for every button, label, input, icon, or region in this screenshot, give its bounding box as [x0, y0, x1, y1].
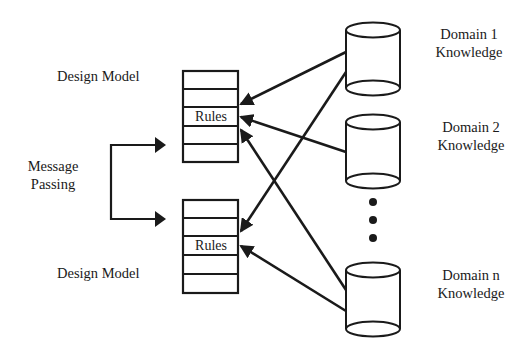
domain-1-line1: Domain 1	[418, 25, 520, 43]
message-passing-label: Message Passing	[22, 157, 84, 193]
arrow-domainn-to-model1	[241, 130, 346, 290]
domain-1-line2: Knowledge	[418, 43, 520, 61]
arrow-domain2-to-model1	[241, 117, 346, 152]
design-model-2-rules-label: Rules	[183, 238, 239, 254]
domain-n-line2: Knowledge	[420, 284, 522, 302]
design-model-1-label: Design Model	[57, 67, 140, 85]
domain-1-knowledge-label: Domain 1 Knowledge	[418, 25, 520, 61]
message-passing-bracket	[111, 145, 164, 219]
domain-2-database-cylinder-icon	[346, 115, 400, 189]
domain-1-database-cylinder-icon	[346, 23, 400, 96]
domain-2-knowledge-label: Domain 2 Knowledge	[420, 118, 522, 154]
domain-n-line1: Domain n	[420, 266, 522, 284]
message-passing-line1: Message	[22, 157, 84, 175]
design-model-2-label: Design Model	[57, 264, 140, 282]
domain-2-line2: Knowledge	[420, 136, 522, 154]
arrow-domainn-to-model2	[241, 246, 346, 311]
diagram-canvas: Design Model Rules Design Model Rules Me…	[0, 0, 527, 357]
ellipsis-dots-icon	[369, 198, 377, 242]
arrowhead-right-bottom	[155, 211, 166, 227]
domain-n-knowledge-label: Domain n Knowledge	[420, 266, 522, 302]
domain-2-line1: Domain 2	[420, 118, 522, 136]
domain-n-database-cylinder-icon	[346, 263, 400, 337]
design-model-1-rules-label: Rules	[183, 109, 239, 125]
arrowhead-right-top	[155, 137, 166, 153]
message-passing-line2: Passing	[22, 175, 84, 193]
